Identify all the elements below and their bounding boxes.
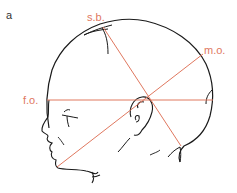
infant-head-diagram: a s.b. m.o. f.o.	[0, 0, 237, 193]
jaw-line	[150, 150, 160, 155]
eye	[62, 110, 78, 127]
skull-outline	[47, 19, 213, 162]
face-profile	[42, 100, 100, 183]
sb-label: s.b.	[87, 11, 105, 23]
sb-diameter-line	[103, 27, 181, 146]
ear	[130, 97, 152, 135]
panel-label: a	[6, 9, 12, 21]
neck-line	[118, 138, 130, 152]
cheek-line	[58, 137, 64, 145]
occipital-suture	[206, 90, 212, 104]
fo-label: f.o.	[23, 94, 38, 106]
mo-label: m.o.	[204, 44, 225, 56]
